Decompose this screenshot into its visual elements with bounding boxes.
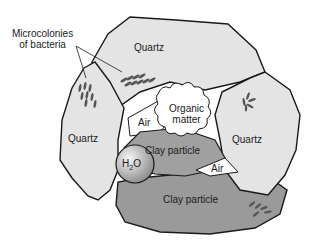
label-organic-line2: matter [169, 114, 204, 125]
label-quartz-left: Quartz [68, 133, 98, 144]
label-water: H2O [122, 158, 141, 172]
label-organic-matter: Organic matter [169, 103, 204, 125]
label-clay-lower: Clay particle [163, 194, 218, 205]
label-air-left: Air [138, 117, 150, 128]
water-o: O [133, 158, 141, 169]
label-microcolonies-line1: Microcolonies [12, 28, 73, 39]
label-organic-line1: Organic [169, 103, 204, 114]
label-quartz-right: Quartz [232, 134, 262, 145]
label-microcolonies: Microcolonies of bacteria [12, 28, 73, 50]
label-microcolonies-line2: of bacteria [12, 39, 73, 50]
label-quartz-top: Quartz [134, 42, 164, 53]
label-clay-upper: Clay particle [145, 145, 200, 156]
label-air-right: Air [211, 163, 223, 174]
